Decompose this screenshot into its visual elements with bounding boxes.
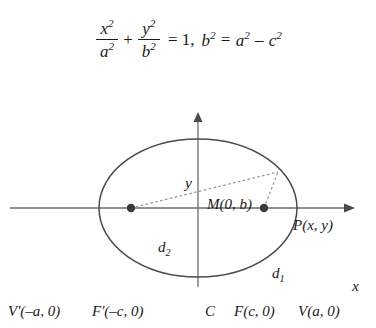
equals-one: = 1, xyxy=(164,31,196,48)
fraction-numerator: y2 xyxy=(138,18,159,39)
diagram-canvas: x2 a2 + y2 b2 = 1, b2 = a2 – c2 xyxy=(0,0,376,328)
x-axis-label: x xyxy=(352,278,359,294)
ellipse-equation: x2 a2 + y2 b2 = 1, b2 = a2 – c2 xyxy=(0,18,376,60)
ellipse-svg xyxy=(0,82,376,328)
left-focus-dot xyxy=(127,204,135,212)
focal-radius-d1-line xyxy=(264,172,278,208)
left-focus-label: F'(–c, 0) xyxy=(92,304,144,319)
top-vertex-label: M(0, b) xyxy=(207,197,252,212)
right-vertex-label: V(a, 0) xyxy=(298,304,340,319)
fraction-y-over-b: y2 b2 xyxy=(138,18,160,60)
fraction-numerator: x2 xyxy=(97,18,118,39)
point-p-label: P(x, y) xyxy=(293,218,333,233)
focal-radius-d2-label: d2 xyxy=(158,240,171,258)
right-focus-label: F(c, 0) xyxy=(234,304,275,319)
relation-b-squared: b2 = a2 – c2 xyxy=(197,30,281,49)
right-focus-dot xyxy=(260,204,268,212)
center-label: C xyxy=(205,304,215,319)
focal-radius-d1-label: d1 xyxy=(272,266,285,284)
left-vertex-label: V'(–a, 0) xyxy=(8,304,60,319)
y-axis-arrow xyxy=(194,112,203,122)
plus-sign: + xyxy=(122,31,134,48)
x-axis-arrow xyxy=(344,204,355,213)
equation-row: x2 a2 + y2 b2 = 1, b2 = a2 – c2 xyxy=(94,18,282,60)
fraction-denominator: b2 xyxy=(138,40,160,61)
ellipse-figure: y x M(0, b) M'(0, –b) P(x, y) d1 d2 V'(–… xyxy=(0,82,376,328)
focal-radius-d2-line xyxy=(131,172,278,208)
fraction-denominator: a2 xyxy=(96,40,118,61)
fraction-x-over-a: x2 a2 xyxy=(96,18,118,60)
y-axis-label: y xyxy=(185,175,192,191)
